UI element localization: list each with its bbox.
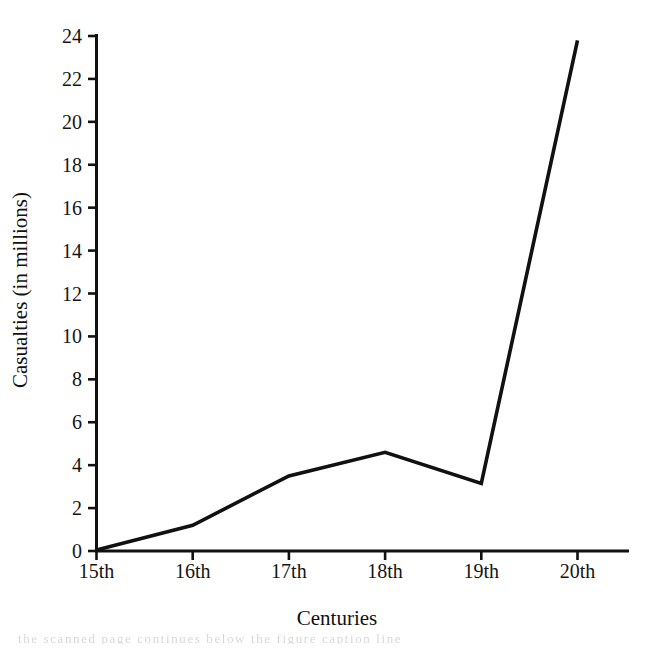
- scan-artifact-text: the scanned page continues below the fig…: [18, 634, 630, 644]
- x-tick-label: 16th: [153, 560, 233, 582]
- x-axis-title-container: Centuries: [0, 606, 646, 631]
- data-line-series-casualties: [97, 40, 578, 550]
- x-tick-label: 18th: [345, 560, 425, 582]
- x-tick-label: 17th: [249, 560, 329, 582]
- x-tick-label: 15th: [57, 560, 137, 582]
- x-tick-label: 19th: [441, 560, 521, 582]
- chart-figure: Casualties (in millions) 024681012141618…: [0, 0, 646, 649]
- x-tick-label: 20th: [538, 560, 618, 582]
- plot-area: [0, 0, 646, 649]
- x-axis-title: Centuries: [297, 606, 377, 631]
